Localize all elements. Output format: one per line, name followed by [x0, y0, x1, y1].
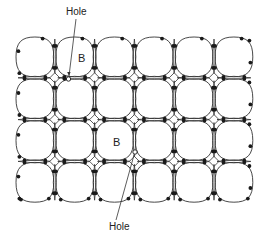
electron-dot — [17, 133, 21, 137]
electron-dot — [47, 197, 51, 201]
electron-dot — [102, 119, 106, 123]
electron-dot — [54, 108, 58, 112]
electron-dot — [200, 37, 204, 41]
hole-marker — [133, 150, 137, 154]
electron-dot — [213, 66, 217, 70]
electron-dot — [120, 37, 124, 41]
electron-dot — [173, 108, 177, 112]
atom-orbit-circle — [135, 162, 173, 202]
electron-dot — [87, 197, 91, 201]
electron-dot — [203, 119, 207, 123]
electron-dot — [43, 77, 47, 81]
electron-dot — [23, 119, 27, 123]
atom-orbit-circle — [175, 79, 213, 119]
electron-dot — [83, 119, 87, 123]
electron-dot — [134, 86, 138, 90]
electron-dot — [62, 77, 66, 81]
electron-dot — [213, 86, 217, 90]
hole-label-bottom: Hole — [109, 221, 130, 232]
atom-orbit-circle — [16, 79, 54, 119]
electron-dot — [134, 44, 138, 48]
electron-dot — [173, 66, 177, 70]
electron-dot — [206, 197, 210, 201]
electron-dot — [242, 119, 246, 123]
electron-dot — [94, 86, 98, 90]
electron-dot — [54, 150, 58, 154]
electron-dot — [163, 77, 167, 81]
atom-orbit-circle — [175, 37, 213, 77]
electron-dot — [203, 161, 207, 165]
electron-dot — [99, 198, 103, 202]
electron-dot — [94, 191, 98, 195]
electron-dot — [213, 128, 217, 132]
atom-orbit-circle — [175, 121, 213, 161]
electron-dot — [81, 37, 85, 41]
electron-dot — [23, 77, 27, 81]
silicon-lattice-diagram: Hole Hole B B — [0, 0, 267, 241]
electron-dot — [222, 77, 226, 81]
electron-dot — [43, 119, 47, 123]
electron-dot — [94, 44, 98, 48]
electron-dot — [166, 197, 170, 201]
hole-marker — [66, 77, 70, 81]
electron-dot — [54, 44, 58, 48]
electron-dot — [213, 191, 217, 195]
electron-dot — [17, 91, 21, 95]
electron-dot — [102, 77, 106, 81]
electron-dot — [134, 128, 138, 132]
atom-orbit-circle — [215, 162, 253, 202]
electron-dot — [240, 37, 244, 41]
atom-orbit-circle — [16, 162, 54, 202]
atom-orbit-circle — [56, 79, 94, 119]
electron-dot — [54, 191, 58, 195]
boron-atom-label-1: B — [78, 52, 85, 64]
electron-dot — [247, 122, 251, 126]
electron-dot — [62, 119, 66, 123]
electron-dot — [94, 169, 98, 173]
hole-label-top: Hole — [66, 6, 87, 17]
atom-orbit-circle — [56, 37, 94, 77]
electron-dot — [160, 37, 164, 41]
electron-dot — [18, 113, 22, 117]
electron-dot — [123, 161, 127, 165]
electron-dot — [163, 161, 167, 165]
electron-dot — [173, 128, 177, 132]
atom-orbit-circle — [135, 37, 173, 77]
electron-dot — [18, 155, 22, 159]
electron-dot — [213, 169, 217, 173]
electron-dot — [138, 198, 142, 202]
atom-orbit-circle — [56, 162, 94, 202]
atom-orbit-circle — [135, 79, 173, 119]
atom-orbit-circle — [56, 121, 94, 161]
electron-dot — [163, 119, 167, 123]
electron-dot — [222, 119, 226, 123]
electron-dot — [43, 161, 47, 165]
electron-dot — [41, 37, 45, 41]
electron-dot — [134, 66, 138, 70]
electron-dot — [173, 150, 177, 154]
atom-orbit-circle — [215, 121, 253, 161]
electron-dot — [17, 49, 21, 53]
electron-dot — [247, 39, 251, 43]
electron-dot — [213, 108, 217, 112]
atom-orbit-circle — [16, 121, 54, 161]
electron-dot — [142, 161, 146, 165]
electron-dot — [54, 86, 58, 90]
electron-dot — [222, 161, 226, 165]
electron-dot — [83, 161, 87, 165]
atom-orbit-circle — [135, 121, 173, 161]
atom-orbit-circle — [96, 37, 134, 77]
electron-dot — [178, 198, 182, 202]
electron-dot — [182, 77, 186, 81]
electron-dot — [173, 86, 177, 90]
electron-dot — [242, 77, 246, 81]
electron-dot — [102, 161, 106, 165]
atom-orbit-circle — [215, 79, 253, 119]
atom-orbit-circle — [215, 37, 253, 77]
electron-dot — [59, 198, 63, 202]
hole-pointer-line-bottom — [116, 155, 134, 220]
electron-dot — [54, 169, 58, 173]
electron-dot — [83, 77, 87, 81]
electron-dot — [134, 191, 138, 195]
electron-dot — [173, 169, 177, 173]
